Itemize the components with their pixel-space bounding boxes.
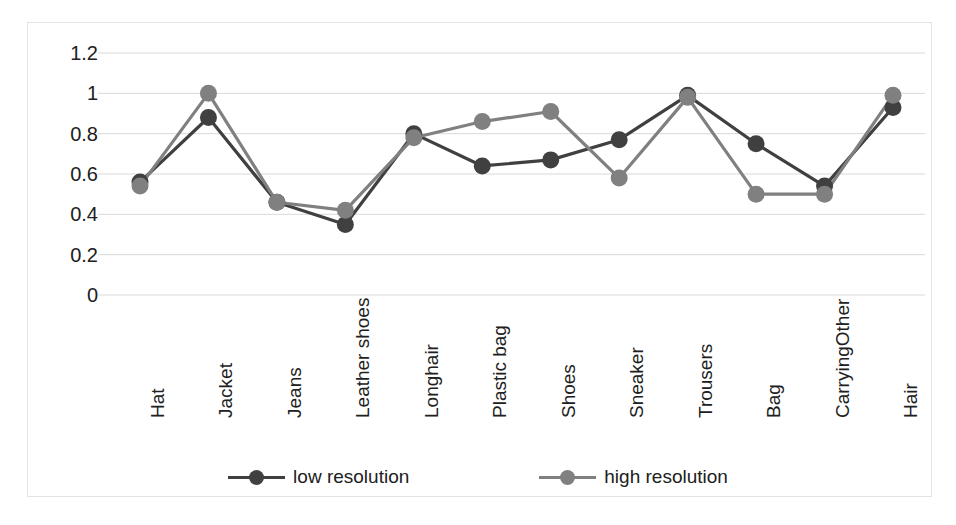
x-axis-tick-label: Hat (147, 388, 169, 418)
x-axis-tick-label: Shoes (558, 364, 580, 418)
x-axis-tick-label: Sneaker (626, 347, 648, 418)
legend-label: low resolution (293, 466, 409, 488)
x-axis-tick-label: Jacket (215, 363, 237, 418)
legend-entry: high resolution (539, 466, 728, 488)
legend-line-icon (263, 476, 285, 479)
legend-line-icon (228, 476, 250, 479)
legend-line-icon (539, 476, 561, 479)
x-axis-labels: HatJacketJeansLeather shoesLonghairPlast… (0, 0, 956, 525)
x-axis-tick-label: Jeans (284, 367, 306, 418)
chart-legend: low resolutionhigh resolution (0, 463, 956, 491)
x-axis-tick-label: Bag (763, 384, 785, 418)
legend-label: high resolution (604, 466, 728, 488)
legend-marker-icon (560, 470, 575, 485)
legend-entry: low resolution (228, 466, 409, 488)
x-axis-tick-label: Longhair (421, 344, 443, 418)
legend-line-icon (574, 476, 596, 479)
x-axis-tick-label: Trousers (695, 344, 717, 418)
x-axis-tick-label: Hair (900, 383, 922, 418)
x-axis-tick-label: CarryingOther (832, 299, 854, 418)
x-axis-tick-label: Leather shoes (352, 298, 374, 418)
x-axis-tick-label: Plastic bag (489, 325, 511, 418)
legend-marker-icon (249, 470, 264, 485)
